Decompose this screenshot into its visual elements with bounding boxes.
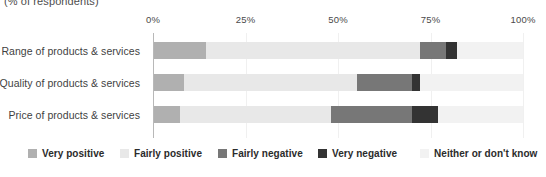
legend-swatch-icon [218,149,227,158]
stacked-bar-chart: (% of respondents) 0%25%50%75%100% Range… [0,0,546,177]
legend-label: Fairly positive [134,148,202,159]
bar-segment [331,106,412,123]
legend-swatch-icon [420,149,429,158]
bar-segment [420,42,446,59]
bar-segment [154,106,180,123]
bar-segment [412,106,438,123]
bar-row [154,106,523,123]
x-axis-tick-label: 75% [421,14,441,25]
legend-label: Very positive [42,148,104,159]
bar-row [154,74,523,91]
legend-label: Very negative [332,148,397,159]
bar-segment [154,42,206,59]
bar-segment [438,106,523,123]
legend-item[interactable]: Very negative [318,148,397,159]
x-axis-tick-labels: 0%25%50%75%100% [0,14,546,28]
category-label: Price of products & services [8,109,140,121]
bar-segment [357,74,412,91]
bar-segment [180,106,331,123]
x-axis-tick-label: 100% [510,14,535,25]
bar-segment [420,74,523,91]
bar-row [154,42,523,59]
legend-item[interactable]: Very positive [28,148,104,159]
legend-swatch-icon [28,149,37,158]
legend-swatch-icon [318,149,327,158]
category-label: Quality of products & services [0,77,140,89]
legend-item[interactable]: Fairly negative [218,148,303,159]
x-axis-tick-label: 25% [236,14,256,25]
category-axis-labels: Range of products & servicesQuality of p… [0,33,148,138]
bar-segment [412,74,419,91]
legend-item[interactable]: Fairly positive [120,148,202,159]
legend-item[interactable]: Neither or don't know [420,148,537,159]
category-label: Range of products & services [1,45,140,57]
bar-segment [446,42,457,59]
bar-segment [184,74,357,91]
x-axis-tick-label: 50% [328,14,348,25]
legend-label: Neither or don't know [434,148,537,159]
bar-segment [457,42,523,59]
bar-segment [154,74,184,91]
legend-swatch-icon [120,149,129,158]
plot-area [153,33,523,138]
chart-legend: Very positiveFairly positiveFairly negat… [0,148,546,168]
bar-segment [206,42,420,59]
chart-subtitle: (% of respondents) [4,0,99,7]
gridline [523,33,524,138]
legend-label: Fairly negative [232,148,303,159]
x-axis-tick-label: 0% [146,14,160,25]
